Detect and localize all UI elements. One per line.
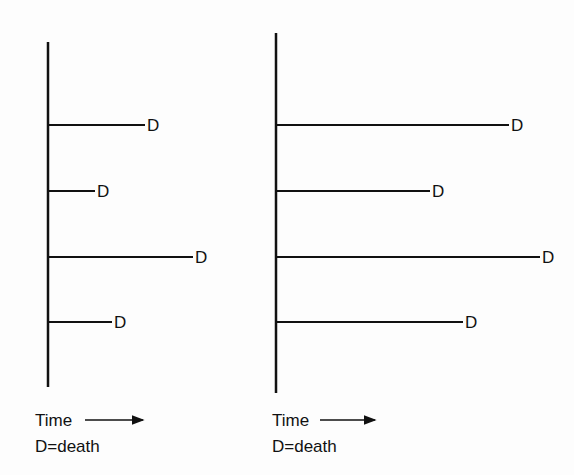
time-legend-label: Time [272,411,309,430]
death-marker-label: D [114,313,126,332]
death-marker-label: D [97,182,109,201]
death-legend-label: D=death [272,437,337,456]
time-legend-label: Time [35,411,72,430]
death-marker-label: D [542,248,554,267]
death-legend-label: D=death [35,437,100,456]
panel-right: DDDDTimeD=death [272,33,554,456]
death-marker-label: D [511,116,523,135]
death-marker-label: D [147,116,159,135]
death-marker-label: D [432,182,444,201]
panel-left: DDDDTimeD=death [35,42,207,456]
death-marker-label: D [465,313,477,332]
death-marker-label: D [195,248,207,267]
survival-timeline-figure: DDDDTimeD=deathDDDDTimeD=death [0,0,574,475]
